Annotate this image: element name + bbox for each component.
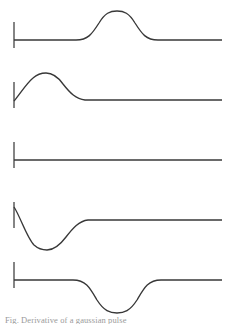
panel-1-gaussian-pulse (14, 11, 222, 48)
figure-caption: Fig. Derivative of a gaussian pulse (5, 316, 233, 324)
panel-4-curve (14, 207, 222, 250)
panel-2-rising-decay (14, 73, 222, 108)
panel-5-inverted-gaussian-pulse (14, 262, 222, 313)
waveform-plot-svg (0, 0, 235, 324)
panel-2-curve (14, 73, 222, 101)
panel-1-curve (14, 11, 222, 40)
panel-5-curve (14, 280, 222, 313)
waveform-figure: Fig. Derivative of a gaussian pulse (0, 0, 235, 324)
panel-4-falling-recovery (14, 202, 222, 250)
panel-3-flat-baseline (14, 142, 222, 168)
